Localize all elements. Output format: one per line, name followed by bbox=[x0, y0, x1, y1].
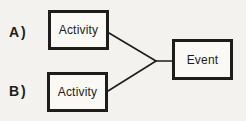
activity-b-box: Activity bbox=[47, 72, 108, 112]
activity-b-label: Activity bbox=[58, 85, 98, 99]
activity-a-box: Activity bbox=[48, 10, 109, 50]
activity-a-label: Activity bbox=[59, 23, 99, 37]
option-label-b: B) bbox=[9, 83, 28, 99]
connector-activity-a-to-junction bbox=[109, 33, 156, 61]
option-label-a: A) bbox=[9, 24, 28, 40]
event-box: Event bbox=[172, 39, 233, 80]
diagram-canvas: A) B) Activity Activity Event bbox=[0, 0, 246, 121]
event-label: Event bbox=[187, 53, 219, 67]
connector-activity-b-to-junction bbox=[108, 61, 156, 91]
